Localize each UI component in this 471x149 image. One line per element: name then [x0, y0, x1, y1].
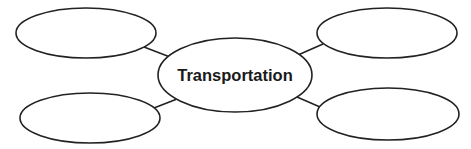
node-top-right — [317, 8, 457, 58]
connector-bottom-right — [297, 97, 320, 107]
node-ellipse-top-left — [16, 8, 156, 58]
connector-bottom-left — [154, 99, 177, 108]
node-ellipse-top-right — [317, 8, 457, 58]
node-ellipse-bottom-right — [317, 88, 459, 140]
node-bottom-right — [317, 88, 459, 140]
node-bottom-left — [20, 93, 160, 143]
center-label: Transportation — [177, 66, 293, 84]
center-node: Transportation — [158, 38, 312, 112]
node-top-left — [16, 8, 156, 58]
concept-web-diagram: Transportation — [0, 0, 471, 149]
connector-top-right — [298, 44, 323, 55]
node-ellipse-bottom-left — [20, 93, 160, 143]
connector-top-left — [144, 47, 170, 57]
